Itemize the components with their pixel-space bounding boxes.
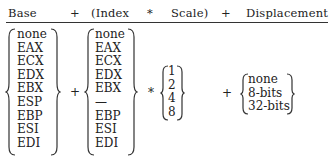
index-register: EAX — [95, 42, 125, 56]
header-index: (Index — [91, 6, 129, 20]
header-times: * — [147, 6, 153, 20]
base-left-brace — [5, 27, 17, 157]
displacement-option: 8-bits — [248, 87, 290, 101]
index-right-brace — [126, 27, 138, 157]
base-register: EBX — [17, 82, 47, 96]
base-register: EAX — [17, 42, 47, 56]
index-register: EBX — [95, 82, 125, 96]
times-operator: * — [148, 86, 154, 100]
base-register: ESP — [17, 96, 47, 110]
header-scale: Scale) — [171, 6, 208, 20]
index-register: EDX — [95, 69, 125, 83]
scale-right-brace — [175, 64, 185, 122]
base-right-brace — [49, 27, 61, 157]
index-register: EDI — [95, 137, 125, 151]
index-register: none — [95, 28, 125, 42]
base-register: EDI — [17, 137, 47, 151]
index-register: ECX — [95, 55, 125, 69]
header-base: Base — [8, 6, 37, 20]
displacement-option: none — [248, 73, 290, 87]
plus-operator-1: + — [70, 85, 80, 99]
header-plus-2: + — [221, 6, 231, 20]
base-register: EBP — [17, 110, 47, 124]
plus-operator-2: + — [222, 86, 232, 100]
base-register-list: none EAX ECX EDX EBX ESP EBP ESI EDI — [17, 28, 47, 150]
base-register: ECX — [17, 55, 47, 69]
base-register: none — [17, 28, 47, 42]
header-plus-1: + — [70, 6, 80, 20]
index-register: EBP — [95, 110, 125, 124]
base-register: ESI — [17, 123, 47, 137]
index-register-excluded: — — [95, 96, 125, 110]
displacement-right-brace — [285, 72, 295, 116]
header-displacement: Displacement — [246, 6, 328, 20]
index-register: ESI — [95, 123, 125, 137]
base-register: EDX — [17, 69, 47, 83]
displacement-option: 32-bits — [248, 100, 290, 114]
header-underline — [6, 22, 328, 23]
index-register-list: none EAX ECX EDX EBX — EBP ESI EDI — [95, 28, 125, 150]
displacement-option-list: none 8-bits 32-bits — [248, 73, 290, 114]
